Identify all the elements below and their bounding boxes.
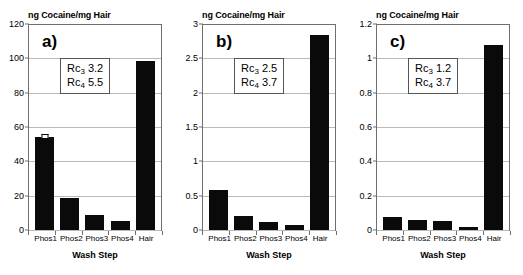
bar-slot bbox=[85, 24, 104, 230]
x-tick-label: Hair bbox=[485, 234, 504, 243]
bar bbox=[111, 221, 130, 230]
x-tick-label: Phos1 bbox=[208, 234, 227, 243]
annotation-label: Rc bbox=[415, 76, 428, 88]
bar-group bbox=[29, 24, 161, 230]
y-tick-label: 80 bbox=[14, 88, 24, 98]
bar-slot bbox=[136, 24, 155, 230]
x-tick-labels: Phos1Phos2Phos3Phos4Hair bbox=[202, 234, 336, 243]
x-tick-mark bbox=[162, 231, 163, 235]
bar-slot bbox=[111, 24, 130, 230]
y-tick-label: 2.5 bbox=[185, 53, 198, 63]
y-tick-label: 1 bbox=[367, 53, 372, 63]
y-tick-label: 1.5 bbox=[185, 122, 198, 132]
panel-letter: a) bbox=[42, 32, 57, 52]
y-tick-label: 100 bbox=[9, 53, 24, 63]
y-tick-label: 0.8 bbox=[359, 88, 372, 98]
y-tick-label: 20 bbox=[14, 191, 24, 201]
annotation-box: Rc33.2Rc45.5 bbox=[60, 58, 110, 94]
x-tick-label: Phos3 bbox=[259, 234, 278, 243]
bar bbox=[383, 217, 402, 230]
bar bbox=[60, 198, 79, 230]
plot-area: 020406080100120 bbox=[28, 24, 162, 231]
y-tick-label: 1 bbox=[193, 156, 198, 166]
bar-slot bbox=[259, 24, 278, 230]
bar bbox=[310, 35, 329, 230]
x-tick-labels: Phos1Phos2Phos3Phos4Hair bbox=[376, 234, 510, 243]
chart-panel: ng Cocaine/mg Hair00.511.522.53Phos1Phos… bbox=[174, 0, 348, 275]
annotation-subscript: 3 bbox=[254, 67, 258, 76]
bar-slot bbox=[383, 24, 402, 230]
y-tick-label: 40 bbox=[14, 156, 24, 166]
bar bbox=[136, 61, 155, 230]
x-tick-mark bbox=[336, 231, 337, 235]
x-tick-label: Phos2 bbox=[408, 234, 427, 243]
y-tick-label: 0 bbox=[19, 225, 24, 235]
y-tick-label: 3 bbox=[193, 19, 198, 29]
x-tick-label: Phos4 bbox=[459, 234, 478, 243]
annotation-box: Rc31.2Rc43.7 bbox=[408, 58, 458, 94]
panel-letter: c) bbox=[390, 32, 405, 52]
bar-chart-figure: ng Cocaine/mg Hair020406080100120Phos1Ph… bbox=[0, 0, 523, 275]
error-bar bbox=[41, 134, 48, 138]
plot-area: 00.20.40.60.811.2 bbox=[376, 24, 510, 231]
bar bbox=[259, 222, 278, 230]
bar bbox=[285, 225, 304, 230]
annotation-subscript: 3 bbox=[80, 67, 84, 76]
chart-panel: ng Cocaine/mg Hair020406080100120Phos1Ph… bbox=[0, 0, 174, 275]
x-tick-label: Hair bbox=[137, 234, 156, 243]
y-tick-label: 0.4 bbox=[359, 156, 372, 166]
annotation-label: Rc bbox=[415, 62, 428, 74]
annotation-value: 1.2 bbox=[436, 62, 451, 74]
annotation-value: 2.5 bbox=[262, 62, 277, 74]
x-tick-label: Phos4 bbox=[285, 234, 304, 243]
annotation-value: 3.2 bbox=[88, 62, 103, 74]
annotation-value: 5.5 bbox=[88, 76, 103, 88]
y-axis-title: ng Cocaine/mg Hair bbox=[202, 10, 285, 20]
bar bbox=[433, 221, 452, 230]
bar-slot bbox=[459, 24, 478, 230]
y-axis-title: ng Cocaine/mg Hair bbox=[28, 10, 111, 20]
chart-panel: ng Cocaine/mg Hair00.20.40.60.811.2Phos1… bbox=[348, 0, 522, 275]
bar bbox=[234, 216, 253, 230]
x-axis-title: Wash Step bbox=[202, 250, 336, 260]
bar bbox=[484, 45, 503, 230]
y-tick-label: 60 bbox=[14, 122, 24, 132]
bar-slot bbox=[408, 24, 427, 230]
bar-slot bbox=[285, 24, 304, 230]
x-tick-label: Phos1 bbox=[382, 234, 401, 243]
bar-group bbox=[377, 24, 509, 230]
x-tick-label: Phos3 bbox=[85, 234, 104, 243]
bar-slot bbox=[60, 24, 79, 230]
x-tick-label: Phos4 bbox=[111, 234, 130, 243]
y-tick-label: 1.2 bbox=[359, 19, 372, 29]
x-tick-label: Phos1 bbox=[34, 234, 53, 243]
annotation-label: Rc bbox=[67, 62, 80, 74]
y-tick-label: 0.6 bbox=[359, 122, 372, 132]
bar bbox=[85, 215, 104, 230]
annotation-row: Rc43.7 bbox=[415, 76, 451, 90]
annotation-box: Rc32.5Rc43.7 bbox=[234, 58, 284, 94]
plot-area: 00.511.522.53 bbox=[202, 24, 336, 231]
y-tick-label: 0 bbox=[367, 225, 372, 235]
y-tick-label: 2 bbox=[193, 88, 198, 98]
y-tick-label: 0.2 bbox=[359, 191, 372, 201]
bar-slot bbox=[310, 24, 329, 230]
annotation-value: 3.7 bbox=[436, 76, 451, 88]
bar-group bbox=[203, 24, 335, 230]
annotation-subscript: 4 bbox=[80, 81, 84, 90]
annotation-subscript: 4 bbox=[254, 81, 258, 90]
bar-slot bbox=[209, 24, 228, 230]
x-tick-label: Hair bbox=[311, 234, 330, 243]
y-axis-title: ng Cocaine/mg Hair bbox=[376, 10, 459, 20]
annotation-row: Rc33.2 bbox=[67, 62, 103, 76]
annotation-row: Rc31.2 bbox=[415, 62, 451, 76]
x-tick-label: Phos3 bbox=[433, 234, 452, 243]
x-tick-mark bbox=[510, 231, 511, 235]
y-tick-label: 0 bbox=[193, 225, 198, 235]
x-tick-labels: Phos1Phos2Phos3Phos4Hair bbox=[28, 234, 162, 243]
bar bbox=[408, 220, 427, 230]
y-tick-label: 0.5 bbox=[185, 191, 198, 201]
bar-slot bbox=[433, 24, 452, 230]
annotation-subscript: 4 bbox=[428, 81, 432, 90]
annotation-label: Rc bbox=[241, 76, 254, 88]
